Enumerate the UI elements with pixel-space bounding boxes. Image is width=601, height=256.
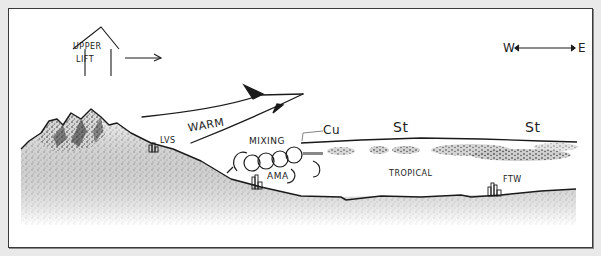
upper-lift-label-line2: LIFT <box>76 56 94 64</box>
upper-lift-label-line1: UPPER <box>73 43 102 51</box>
ftw-label: FTW <box>503 176 522 184</box>
tropical-label: TROPICAL <box>389 170 432 178</box>
tropical-layer <box>301 131 578 161</box>
city-ftw <box>488 183 501 196</box>
stratus-left-label: St <box>393 120 408 134</box>
compass-east-label: E <box>578 42 586 54</box>
lvs-label: LVS <box>160 137 176 145</box>
diagram-frame: UPPER LIFT W E WARM LVS MIXING Cu St St … <box>8 8 593 248</box>
terrain <box>21 109 576 225</box>
compass-arrow <box>515 45 575 51</box>
stratus-right-label: St <box>525 120 540 134</box>
upper-lift-symbol <box>73 27 161 76</box>
mixing-label: MIXING <box>249 137 285 146</box>
ama-label: AMA <box>267 172 289 181</box>
compass-west-label: W <box>503 42 515 54</box>
warm-air-arrow <box>142 85 303 143</box>
cumulus-label: Cu <box>323 124 340 136</box>
